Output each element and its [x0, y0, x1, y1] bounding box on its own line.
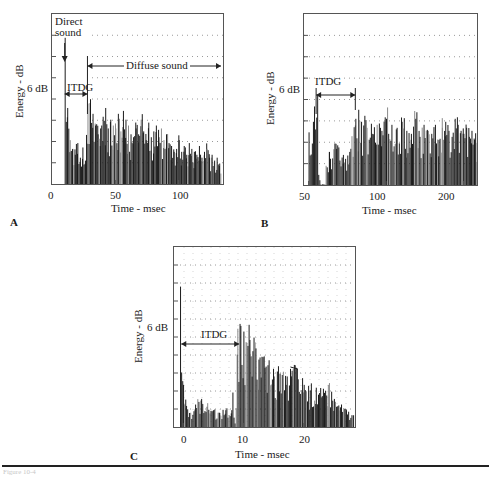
y-axis-label-a: Energy - dB [13, 64, 25, 118]
panel-letter-c: C [130, 450, 138, 462]
direct-sound-label-line2: sound [55, 27, 81, 38]
plot-area-b [303, 13, 478, 186]
itdg-label-b: ITDG [315, 76, 341, 87]
x-axis-label-c: Time - msec [235, 449, 290, 460]
panel-letter-b: B [261, 217, 268, 229]
x-axis-label-b: Time - msec [362, 205, 417, 216]
caption-text: Figure 10-4 [3, 468, 36, 476]
x-axis-label-a: Time - msec [111, 203, 166, 214]
x-tick-c-0: 0 [181, 434, 187, 445]
itdg-label-a: ITDG [67, 82, 93, 93]
diffuse-sound-label: Diffuse sound [124, 60, 190, 71]
scale-label-b: 6 dB [279, 84, 300, 95]
x-tick-a-1: 50 [110, 190, 121, 201]
chart-svg [304, 14, 477, 185]
plot-area-a [51, 13, 224, 185]
scale-label-c: 6 dB [147, 322, 168, 333]
x-tick-b-0: 50 [299, 191, 310, 202]
panel-letter-a: A [10, 216, 18, 228]
y-axis-label-c: Energy - dB [132, 309, 144, 363]
x-tick-a-2: 100 [172, 190, 189, 201]
caption-rule [2, 465, 489, 467]
x-tick-a-0: 0 [48, 190, 54, 201]
x-tick-b-1: 100 [369, 191, 386, 202]
itdg-label-c: ITDG [201, 329, 227, 340]
x-tick-b-2: 200 [438, 191, 455, 202]
scale-label-a: 6 dB [27, 83, 48, 94]
y-axis-label-b: Energy - dB [264, 71, 276, 125]
x-tick-c-1: 10 [237, 434, 248, 445]
x-tick-c-2: 20 [299, 434, 310, 445]
chart-svg [52, 14, 223, 184]
